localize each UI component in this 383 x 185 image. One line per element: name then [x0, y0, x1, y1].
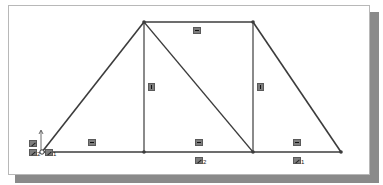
vertex-bottom-mid-left[interactable] — [142, 150, 146, 154]
fixed-relation-icon[interactable] — [29, 140, 37, 147]
relation-index: 2 — [203, 159, 206, 165]
vertex-bottom-mid-right[interactable] — [251, 150, 255, 154]
vertical-relation-icon[interactable] — [148, 83, 155, 91]
origin-point[interactable] — [40, 150, 44, 154]
relation-index: 1 — [53, 151, 56, 157]
coincident-relation-icon[interactable] — [45, 149, 53, 156]
origin-axis-icon — [39, 130, 43, 152]
vertex-top-left[interactable] — [142, 20, 146, 24]
relation-index: 1 — [301, 159, 304, 165]
left-slant-line[interactable] — [42, 22, 144, 152]
right-slant-line[interactable] — [253, 22, 341, 152]
vertex-bottom-right[interactable] — [339, 150, 343, 154]
vertex-top-right[interactable] — [251, 20, 255, 24]
relation-index: 2 — [37, 151, 40, 157]
collinear-relation-icon[interactable] — [195, 157, 203, 164]
vertical-relation-icon[interactable] — [257, 83, 264, 91]
horizontal-relation-icon[interactable] — [293, 139, 301, 146]
horizontal-relation-icon[interactable] — [193, 27, 201, 34]
collinear-relation-icon[interactable] — [293, 157, 301, 164]
sketch-canvas — [0, 0, 383, 185]
diagonal-line[interactable] — [144, 22, 253, 152]
horizontal-relation-icon[interactable] — [195, 139, 203, 146]
horizontal-relation-icon[interactable] — [88, 139, 96, 146]
coincident-relation-icon[interactable] — [29, 149, 37, 156]
